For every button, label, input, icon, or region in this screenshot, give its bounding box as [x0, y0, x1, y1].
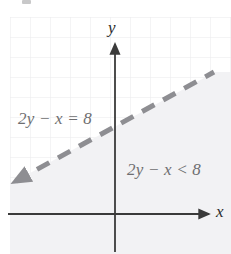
x-axis-label: x — [216, 203, 224, 220]
y-axis-label: y — [108, 19, 116, 36]
shaded-region-inequality-label: 2y − x < 8 — [127, 161, 201, 178]
cropped-text-artifact — [22, 0, 31, 4]
inequality-graph-figure: 2y − x = 8 2y − x < 8 y x — [0, 0, 231, 254]
boundary-line-equation-label: 2y − x = 8 — [18, 110, 92, 127]
